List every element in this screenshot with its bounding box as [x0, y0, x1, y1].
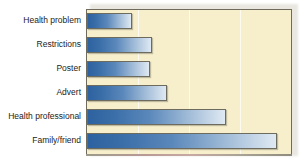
- category-label-poster: Poster: [0, 63, 81, 73]
- bar-poster[interactable]: [87, 61, 150, 77]
- bar-advert[interactable]: [87, 85, 167, 101]
- category-label-advert: Advert: [0, 87, 81, 97]
- category-label-restrictions: Restrictions: [0, 39, 81, 49]
- category-axis-labels: Health problem Restrictions Poster Adver…: [0, 0, 84, 165]
- x-axis-line: [86, 154, 292, 156]
- category-label-family-friend: Family/friend: [0, 135, 81, 145]
- bar-health-problem[interactable]: [87, 13, 132, 29]
- bars-layer: [87, 10, 291, 154]
- bar-restrictions[interactable]: [87, 37, 152, 53]
- bar-health-professional[interactable]: [87, 109, 226, 125]
- category-label-health-problem: Health problem: [0, 15, 81, 25]
- bar-family-friend[interactable]: [87, 133, 277, 149]
- category-label-health-professional: Health professional: [0, 111, 81, 121]
- bar-chart: Health problem Restrictions Poster Adver…: [0, 0, 306, 165]
- plot-inner: [87, 10, 291, 154]
- plot-area: [86, 9, 292, 155]
